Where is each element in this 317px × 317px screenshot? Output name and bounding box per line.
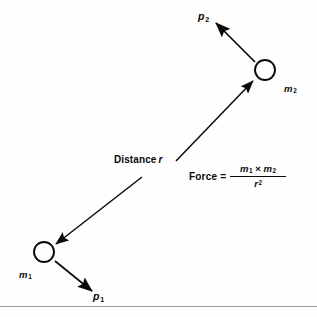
formula-fraction: m1×m2 r2 (230, 163, 286, 189)
distance-label-text: Distance (114, 154, 157, 165)
formula-lhs-label: Force (189, 171, 220, 182)
formula-denominator-exponent: 2 (258, 179, 262, 186)
mass-label-m2-symbol: m (284, 83, 293, 94)
momentum-label-p1: p1 (93, 291, 104, 304)
momentum-arrow-p1 (55, 261, 92, 291)
momentum-label-p1-subscript: 1 (100, 296, 104, 304)
mass-label-m2: m2 (284, 84, 297, 95)
formula-denominator: r2 (254, 177, 262, 190)
formula-numerator-m1-symbol: m (240, 163, 249, 174)
distance-arrow-to-m1 (56, 177, 142, 244)
momentum-label-p1-symbol: p (93, 290, 100, 302)
multiplication-sign-icon: × (253, 163, 264, 174)
mass-label-m1-symbol: m (19, 269, 28, 280)
physics-diagram: p2 m2 m1 p1 Distancer Force = m1×m2 r2 (0, 0, 317, 317)
bottom-divider (0, 306, 317, 307)
formula-numerator-m2-symbol: m (263, 163, 272, 174)
mass-body-m2 (255, 60, 275, 80)
mass-label-m1: m1 (19, 270, 32, 281)
formula-equals-sign: = (220, 171, 230, 182)
momentum-label-p2-symbol: p (198, 10, 205, 22)
force-formula: Force = m1×m2 r2 (189, 163, 286, 189)
mass-label-m2-subscript: 2 (293, 87, 297, 94)
distance-label: Distancer (114, 155, 163, 165)
distance-label-variable: r (157, 154, 163, 165)
momentum-label-p2-subscript: 2 (205, 16, 209, 24)
distance-arrow-to-m2 (176, 81, 253, 161)
momentum-arrow-p2 (216, 23, 255, 62)
formula-numerator-m2-subscript: 2 (272, 167, 276, 174)
mass-body-m1 (34, 242, 54, 262)
mass-label-m1-subscript: 1 (28, 273, 32, 280)
formula-numerator: m1×m2 (237, 163, 279, 176)
momentum-label-p2: p2 (198, 11, 209, 24)
